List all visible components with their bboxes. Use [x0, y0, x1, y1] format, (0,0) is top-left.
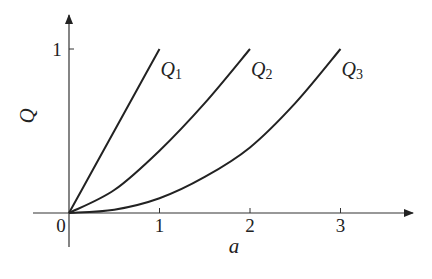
curve-label-q1: Q1 [161, 58, 182, 82]
y-ticks: 1 [52, 39, 74, 60]
curve-labels: Q1Q2Q3 [161, 58, 363, 82]
x-axis-label: a [229, 234, 240, 258]
y-axis-label: Q [15, 108, 39, 123]
curves [69, 49, 341, 213]
curve-q2 [69, 49, 250, 213]
curve-label-q2: Q2 [251, 58, 272, 82]
x-tick-label: 2 [245, 215, 255, 236]
curve-q1 [69, 49, 160, 213]
y-tick-label: 1 [52, 39, 62, 60]
x-tick-label: 0 [56, 215, 66, 236]
x-tick-label: 3 [336, 215, 346, 236]
x-tick-label: 1 [155, 215, 165, 236]
curve-label-q3: Q3 [342, 58, 363, 82]
chart: 0123 1 Q1Q2Q3 a Q [0, 0, 432, 279]
curve-q3 [69, 49, 341, 213]
